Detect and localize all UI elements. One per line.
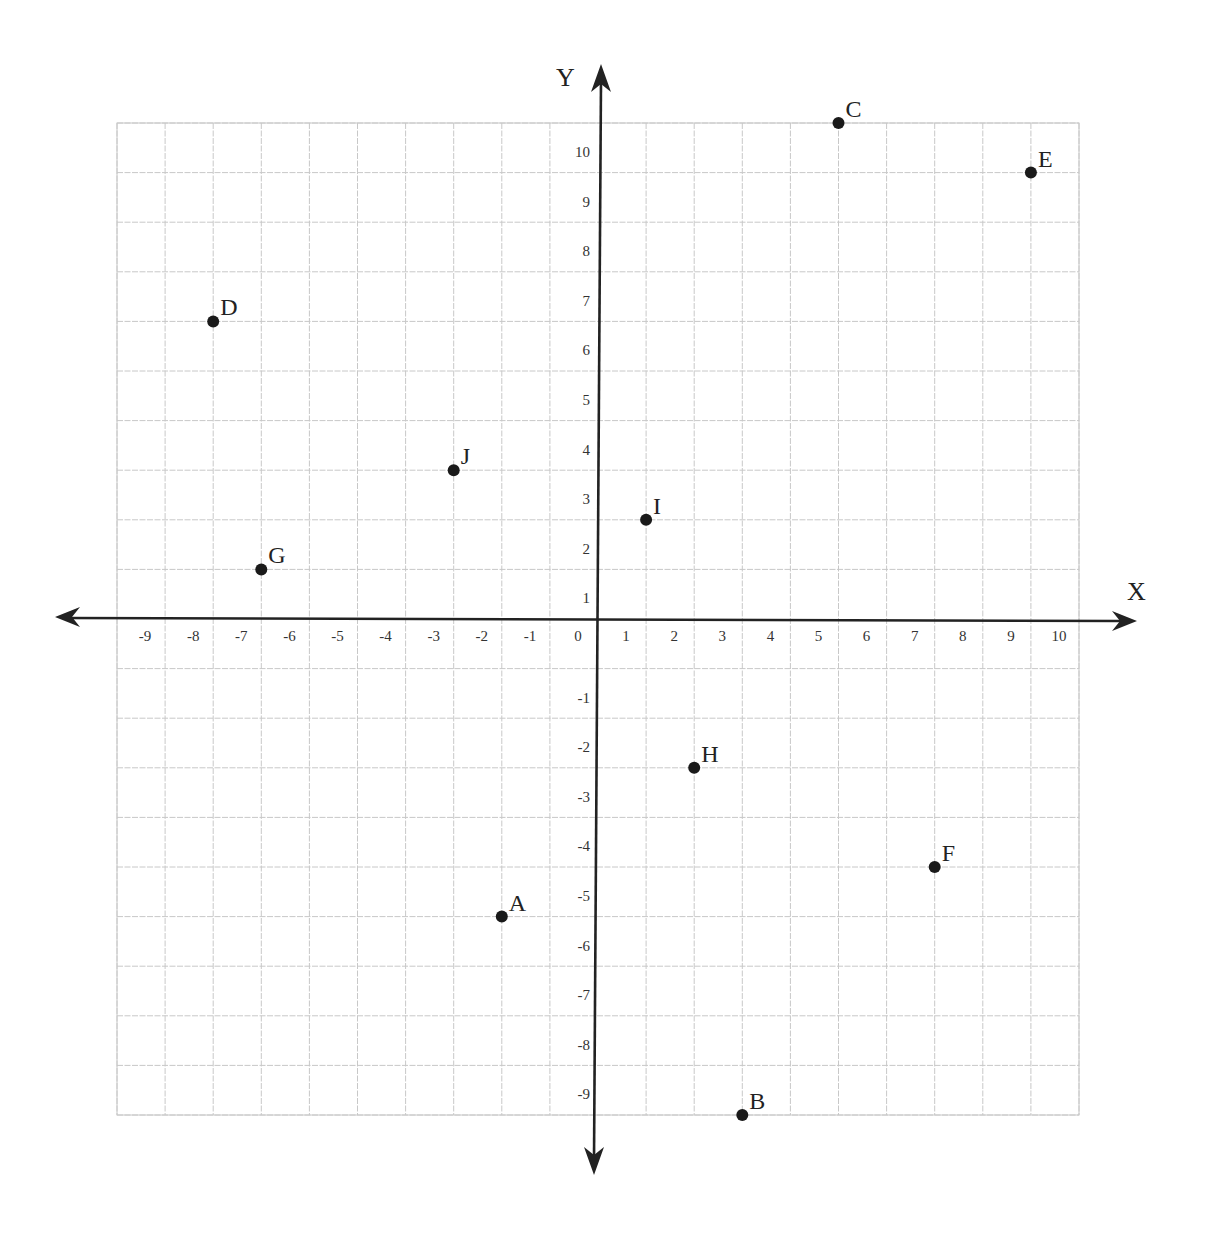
data-point-b: B <box>736 1088 765 1121</box>
y-tick-label: 8 <box>583 243 591 259</box>
tick-labels: -9-8-7-6-5-4-3-2-10123456789101098765432… <box>139 144 1067 1102</box>
y-tick-label: -3 <box>578 789 591 805</box>
x-tick-label: 2 <box>670 628 678 644</box>
data-point-g: G <box>255 542 285 575</box>
data-point-i: I <box>640 493 661 526</box>
point-marker-icon <box>1025 167 1037 179</box>
y-tick-label: -7 <box>578 987 591 1003</box>
y-tick-label: -6 <box>578 938 591 954</box>
y-tick-label: -9 <box>578 1086 591 1102</box>
point-label: G <box>268 542 285 568</box>
y-tick-label: 2 <box>583 541 591 557</box>
x-tick-label: 9 <box>1007 628 1015 644</box>
data-point-h: H <box>688 741 718 774</box>
data-point-j: J <box>448 443 470 476</box>
point-marker-icon <box>688 762 700 774</box>
x-tick-label: -3 <box>427 628 440 644</box>
x-axis <box>66 618 1122 621</box>
data-point-a: A <box>496 890 527 923</box>
point-marker-icon <box>496 911 508 923</box>
x-tick-label: -1 <box>524 628 537 644</box>
y-tick-label: 10 <box>575 144 590 160</box>
data-point-e: E <box>1025 146 1053 179</box>
point-marker-icon <box>448 464 460 476</box>
y-tick-label: 7 <box>583 293 591 309</box>
y-tick-label: 4 <box>583 442 591 458</box>
y-tick-label: -8 <box>578 1037 591 1053</box>
y-tick-label: 6 <box>583 342 591 358</box>
y-axis-label: Y <box>556 63 575 92</box>
y-tick-label: -1 <box>578 690 591 706</box>
point-marker-icon <box>929 861 941 873</box>
x-tick-label: -9 <box>139 628 152 644</box>
data-point-f: F <box>929 840 955 873</box>
point-label: J <box>461 443 470 469</box>
x-tick-label: 8 <box>959 628 967 644</box>
x-axis-label: X <box>1127 577 1146 606</box>
point-label: C <box>846 96 862 122</box>
x-tick-label: -8 <box>187 628 200 644</box>
y-tick-label: -2 <box>578 739 591 755</box>
x-tick-label: 0 <box>574 628 582 644</box>
y-tick-label: -5 <box>578 888 591 904</box>
point-marker-icon <box>640 514 652 526</box>
x-tick-label: 5 <box>815 628 823 644</box>
point-label: B <box>749 1088 765 1114</box>
x-tick-label: 6 <box>863 628 871 644</box>
y-tick-label: 5 <box>583 392 591 408</box>
point-label: F <box>942 840 955 866</box>
point-marker-icon <box>833 117 845 129</box>
x-tick-label: -2 <box>476 628 489 644</box>
y-tick-label: -4 <box>578 838 591 854</box>
point-label: A <box>509 890 527 916</box>
point-marker-icon <box>207 315 219 327</box>
point-label: D <box>220 294 237 320</box>
data-points: ABCDEFGHIJ <box>207 96 1052 1121</box>
point-marker-icon <box>736 1109 748 1121</box>
data-point-c: C <box>833 96 862 129</box>
point-label: I <box>653 493 661 519</box>
x-tick-label: 1 <box>622 628 630 644</box>
point-label: H <box>701 741 718 767</box>
y-tick-label: 9 <box>583 194 591 210</box>
y-tick-label: 1 <box>583 590 591 606</box>
data-point-d: D <box>207 294 237 327</box>
coordinate-plane: Y X -9-8-7-6-5-4-3-2-1012345678910109876… <box>0 0 1205 1239</box>
point-label: E <box>1038 146 1053 172</box>
x-tick-label: 4 <box>767 628 775 644</box>
x-tick-label: 10 <box>1052 628 1067 644</box>
x-tick-label: -6 <box>283 628 296 644</box>
x-tick-label: -5 <box>331 628 344 644</box>
x-tick-label: -7 <box>235 628 248 644</box>
x-tick-label: -4 <box>379 628 392 644</box>
point-marker-icon <box>255 563 267 575</box>
x-tick-label: 3 <box>719 628 727 644</box>
y-tick-label: 3 <box>583 491 591 507</box>
x-tick-label: 7 <box>911 628 919 644</box>
